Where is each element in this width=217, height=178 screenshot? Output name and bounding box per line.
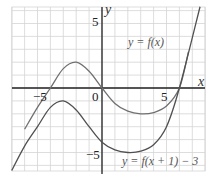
tick-x-0: 0 bbox=[92, 89, 99, 105]
tick-x-neg5: −5 bbox=[33, 89, 47, 105]
x-axis-label: x bbox=[198, 74, 204, 90]
curve-f-label: y = f(x) bbox=[128, 35, 164, 50]
y-axis-label: y bbox=[105, 2, 111, 18]
tick-x-5: 5 bbox=[161, 89, 168, 105]
curve-shifted-label: y = f(x + 1) − 3 bbox=[122, 154, 198, 169]
tick-y-neg5: −5 bbox=[86, 147, 100, 163]
tick-y-5: 5 bbox=[92, 14, 99, 30]
